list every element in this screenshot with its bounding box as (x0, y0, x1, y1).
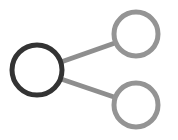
share-network-icon[interactable] (0, 0, 178, 140)
share-icon-canvas (0, 0, 178, 140)
target-node-bottom[interactable] (114, 83, 158, 127)
target-node-top[interactable] (114, 12, 158, 56)
source-node[interactable] (12, 45, 62, 95)
